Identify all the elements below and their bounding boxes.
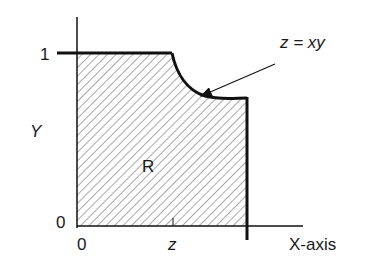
y-tick-bottom-label: 0	[56, 213, 65, 232]
curve-annotation-label: z = xy	[279, 33, 326, 52]
x-tick-origin-label: 0	[77, 235, 86, 254]
hatched-region	[77, 53, 247, 226]
x-tick-z-label: z	[167, 235, 177, 254]
y-axis-label: Y	[30, 122, 43, 141]
y-tick-top-label: 1	[40, 45, 49, 64]
x-axis-label: X-axis	[289, 235, 336, 254]
region-label: R	[142, 157, 154, 176]
region-diagram: 1 Y R 0 0 z X-axis z = xy	[0, 0, 366, 271]
annotation-arrow	[201, 64, 275, 96]
